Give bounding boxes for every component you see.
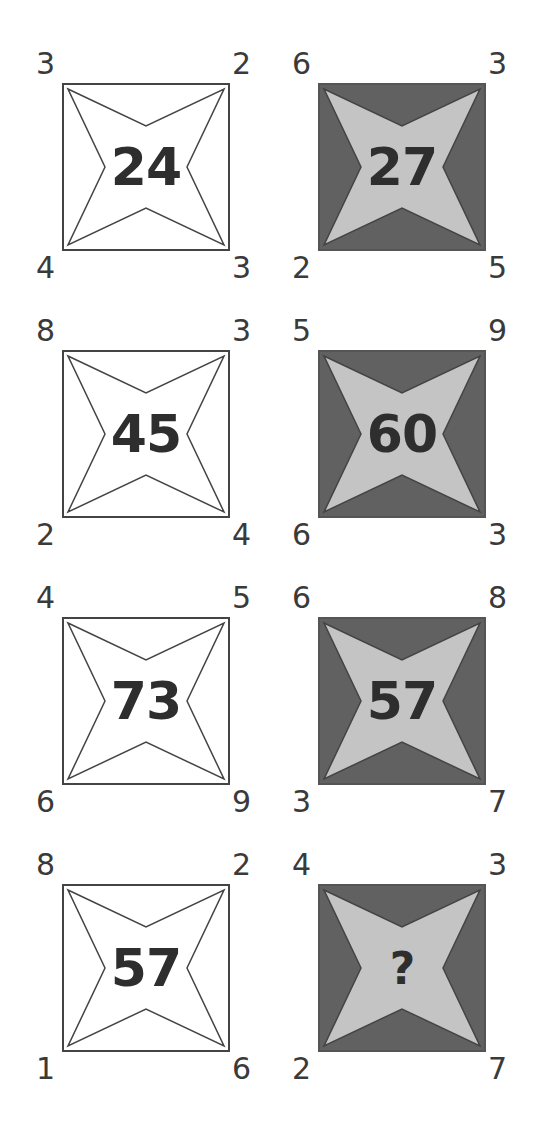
corner-top-left: 5 — [292, 316, 311, 346]
center-value: 57 — [318, 617, 486, 785]
center-value: 60 — [318, 350, 486, 518]
center-value: 45 — [62, 350, 230, 518]
puzzle-box-8: 4 3 2 7 ? — [290, 850, 530, 1100]
corner-top-left: 6 — [292, 583, 311, 613]
puzzle-box-2: 6 3 2 5 27 — [290, 49, 530, 299]
corner-bottom-left: 4 — [36, 253, 55, 283]
center-value: 27 — [318, 83, 486, 251]
puzzle-box-3: 8 3 2 4 45 — [34, 316, 274, 566]
unknown-value: ? — [318, 884, 486, 1052]
corner-bottom-left: 2 — [292, 1054, 311, 1084]
corner-bottom-right: 5 — [488, 253, 507, 283]
puzzle-box-1: 3 2 4 3 24 — [34, 49, 274, 299]
corner-top-right: 9 — [488, 316, 507, 346]
corner-bottom-left: 1 — [36, 1054, 55, 1084]
corner-bottom-left: 2 — [292, 253, 311, 283]
corner-top-right: 2 — [232, 49, 251, 79]
corner-bottom-right: 3 — [488, 520, 507, 550]
puzzle-box-6: 6 8 3 7 57 — [290, 583, 530, 833]
puzzle-box-7: 8 2 1 6 57 — [34, 850, 274, 1100]
corner-bottom-left: 3 — [292, 787, 311, 817]
corner-bottom-right: 7 — [488, 1054, 507, 1084]
center-value: 73 — [62, 617, 230, 785]
corner-bottom-right: 3 — [232, 253, 251, 283]
corner-bottom-left: 6 — [292, 520, 311, 550]
corner-bottom-right: 4 — [232, 520, 251, 550]
center-value: 24 — [62, 83, 230, 251]
corner-top-right: 2 — [232, 850, 251, 880]
corner-top-left: 4 — [36, 583, 55, 613]
corner-top-left: 8 — [36, 316, 55, 346]
corner-top-left: 4 — [292, 850, 311, 880]
corner-top-right: 3 — [488, 49, 507, 79]
corner-bottom-left: 6 — [36, 787, 55, 817]
corner-bottom-right: 7 — [488, 787, 507, 817]
corner-top-left: 6 — [292, 49, 311, 79]
puzzle-box-4: 5 9 6 3 60 — [290, 316, 530, 566]
corner-bottom-right: 9 — [232, 787, 251, 817]
puzzle-box-5: 4 5 6 9 73 — [34, 583, 274, 833]
corner-top-left: 8 — [36, 850, 55, 880]
corner-bottom-left: 2 — [36, 520, 55, 550]
corner-top-right: 3 — [488, 850, 507, 880]
corner-bottom-right: 6 — [232, 1054, 251, 1084]
corner-top-right: 3 — [232, 316, 251, 346]
corner-top-right: 8 — [488, 583, 507, 613]
corner-top-left: 3 — [36, 49, 55, 79]
corner-top-right: 5 — [232, 583, 251, 613]
center-value: 57 — [62, 884, 230, 1052]
number-puzzle: 3 2 4 3 24 6 3 2 5 27 8 3 2 4 45 — [0, 0, 542, 1148]
